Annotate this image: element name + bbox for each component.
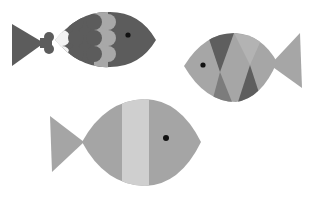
fish-illustration — [0, 0, 321, 199]
fish-eye — [163, 135, 169, 141]
light-stripe — [122, 96, 149, 191]
fish-tail — [12, 24, 44, 66]
fish-right — [180, 28, 302, 108]
fish-tail — [50, 116, 84, 172]
fish-bottom — [50, 96, 205, 191]
fish-eye — [200, 62, 205, 67]
white-scallops — [50, 8, 70, 73]
fish-tail-fork — [40, 32, 54, 54]
fish-top-left — [12, 8, 160, 73]
fish-eye — [125, 32, 130, 37]
